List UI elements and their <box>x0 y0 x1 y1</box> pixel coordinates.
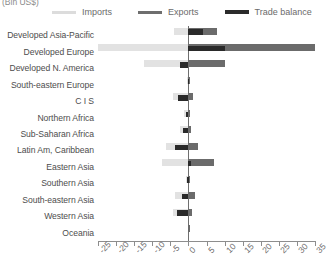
bar-row <box>98 93 315 109</box>
bar-trade-balance <box>188 161 190 166</box>
bar-row <box>98 43 315 59</box>
category-label: Eastern Asia <box>46 159 94 175</box>
bar-trade-balance <box>186 112 189 117</box>
category-label: C I S <box>75 93 94 109</box>
bar-trade-balance <box>187 177 188 182</box>
legend-label-imports: Imports <box>82 7 112 17</box>
category-label: Developed Europe <box>24 43 94 59</box>
category-label: Sub-Saharan Africa <box>20 126 94 142</box>
bar-exports <box>188 192 195 199</box>
bar-trade-balance <box>188 79 189 84</box>
category-label: Developed N. America <box>9 60 94 76</box>
bar-row <box>98 27 315 43</box>
bar-row <box>98 126 315 142</box>
category-label: Western Asia <box>44 208 94 224</box>
x-tick-label: 30 <box>296 241 310 255</box>
bar-rows <box>98 27 315 241</box>
bar-row <box>98 159 315 175</box>
x-tick-label: -25 <box>97 239 113 255</box>
bar-row <box>98 175 315 191</box>
bar-exports <box>188 159 214 166</box>
category-axis-labels: Developed Asia-PacificDeveloped EuropeDe… <box>0 27 94 241</box>
bar-exports <box>188 143 197 150</box>
bar-row <box>98 109 315 125</box>
bar-imports <box>162 159 188 166</box>
bar-trade-balance <box>188 29 202 34</box>
category-label: Southern Asia <box>41 175 94 191</box>
x-tick-label: 10 <box>224 241 238 255</box>
bar-row <box>98 142 315 158</box>
bar-trade-balance <box>183 128 189 133</box>
bar-trade-balance <box>177 210 188 215</box>
x-tick-label: 20 <box>260 241 274 255</box>
bar-exports <box>188 126 190 133</box>
bar-trade-balance <box>188 46 224 51</box>
x-tick-label: 35 <box>314 241 328 255</box>
bar-imports <box>174 28 188 35</box>
x-tick-label: -10 <box>151 239 167 255</box>
bar-exports <box>188 110 190 117</box>
bar-row <box>98 60 315 76</box>
x-tick-label: 15 <box>242 241 256 255</box>
bar-exports <box>188 209 192 216</box>
category-label: South-eastern Europe <box>11 76 94 92</box>
category-label: South-eastern Asia <box>22 192 94 208</box>
x-tick-label: -20 <box>115 239 131 255</box>
legend-item-trade-balance: Trade balance <box>225 7 312 17</box>
bar-exports <box>188 60 225 67</box>
chart-legend: Imports Exports Trade balance <box>52 7 312 17</box>
x-tick-label: 5 <box>206 245 216 255</box>
bar-row <box>98 208 315 224</box>
legend-item-exports: Exports <box>138 7 199 17</box>
bar-trade-balance <box>175 145 188 150</box>
bar-exports <box>188 93 192 100</box>
x-tick-label: -5 <box>169 243 181 255</box>
legend-swatch-trade-balance-icon <box>225 10 249 14</box>
bar-exports <box>188 176 190 183</box>
legend-swatch-exports-icon <box>138 11 162 14</box>
x-tick-label: 0 <box>187 245 197 255</box>
category-label: Northern Africa <box>37 109 94 125</box>
category-label: Oceania <box>62 225 94 241</box>
category-label: Latin Am, Caribbean <box>17 142 94 158</box>
bar-trade-balance <box>182 194 189 199</box>
legend-item-imports: Imports <box>52 7 112 17</box>
bar-row <box>98 76 315 92</box>
bar-row <box>98 225 315 241</box>
bar-exports <box>188 225 189 232</box>
legend-swatch-imports-icon <box>52 11 76 14</box>
x-tick-label: -15 <box>133 239 149 255</box>
bar-trade-balance <box>178 95 189 100</box>
bar-imports <box>98 44 188 51</box>
category-label: Developed Asia-Pacific <box>7 27 94 43</box>
x-tick-label: 25 <box>278 241 292 255</box>
units-caption: (Bln US$) <box>2 0 39 7</box>
bar-row <box>98 192 315 208</box>
x-axis-ticks: -25-20-15-10-505101520253035 <box>98 241 315 275</box>
bar-trade-balance <box>180 62 188 67</box>
legend-label-exports: Exports <box>168 7 199 17</box>
plot-area <box>98 27 315 241</box>
legend-label-trade-balance: Trade balance <box>255 7 312 17</box>
